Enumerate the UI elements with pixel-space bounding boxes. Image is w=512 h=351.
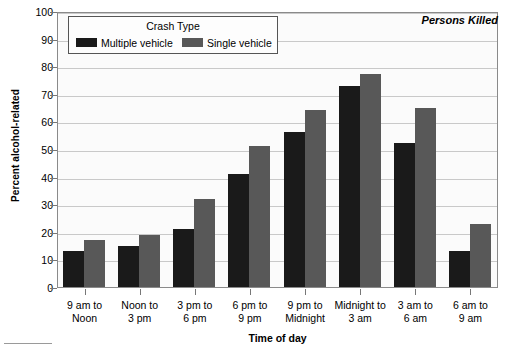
bar — [284, 132, 305, 287]
bar-group — [444, 13, 499, 287]
bar-group — [334, 13, 389, 287]
legend: Crash Type Multiple vehicle Single vehic… — [68, 16, 278, 54]
x-axis-tick-label-line: 9 am — [433, 312, 507, 325]
y-axis-tick-mark — [50, 12, 57, 13]
chart-annotation: Persons Killed — [422, 14, 498, 26]
bar-group — [168, 13, 223, 287]
x-axis-tick-mark — [85, 289, 86, 295]
bar — [305, 110, 326, 287]
legend-title: Crash Type — [69, 20, 277, 32]
bar — [394, 143, 415, 287]
bar-group — [279, 13, 334, 287]
bar — [360, 74, 381, 287]
y-axis-tick-mark — [50, 122, 57, 123]
bar — [470, 224, 491, 287]
y-axis-tick-label: 70 — [13, 90, 53, 100]
bar — [173, 229, 194, 287]
scan-artifact-line — [4, 343, 52, 344]
y-axis-tick-mark — [50, 178, 57, 179]
x-axis-tick-mark — [140, 289, 141, 295]
x-axis-tick-mark — [250, 289, 251, 295]
bar — [449, 251, 470, 287]
x-axis-tick-label: 6 am to9 am — [433, 299, 507, 324]
x-axis-tick-mark — [470, 289, 471, 295]
y-axis-tick-label: 90 — [13, 35, 53, 45]
y-axis-tick-label: 0 — [13, 283, 53, 293]
y-axis-tick-label: 80 — [13, 62, 53, 72]
bar — [249, 146, 270, 287]
y-axis-tick-mark — [50, 205, 57, 206]
bar — [194, 199, 215, 287]
y-axis-tick-mark — [50, 150, 57, 151]
y-axis-tick-label: 50 — [13, 145, 53, 155]
y-axis-tick-mark — [50, 40, 57, 41]
x-axis-tick-mark — [305, 289, 306, 295]
bar — [228, 174, 249, 287]
bar-group — [58, 13, 113, 287]
legend-label-single-vehicle: Single vehicle — [207, 37, 272, 49]
legend-swatch-multiple-vehicle — [76, 38, 97, 47]
legend-swatch-single-vehicle — [182, 38, 203, 47]
bar-group — [223, 13, 278, 287]
y-axis-tick-mark — [50, 67, 57, 68]
y-axis-tick-label: 100 — [13, 7, 53, 17]
y-axis-tick-mark — [50, 233, 57, 234]
bar — [118, 246, 139, 287]
y-axis-tick-label: 10 — [13, 255, 53, 265]
bar-chart-figure: Percent alcohol-related 0102030405060708… — [0, 0, 512, 351]
legend-label-multiple-vehicle: Multiple vehicle — [101, 37, 173, 49]
bar-group — [113, 13, 168, 287]
x-axis-title: Time of day — [57, 332, 498, 344]
legend-entry-single-vehicle: Single vehicle — [182, 36, 272, 49]
bar — [139, 235, 160, 287]
x-axis-tick-mark — [415, 289, 416, 295]
y-axis-tick-label: 60 — [13, 117, 53, 127]
y-axis-tick-label: 40 — [13, 173, 53, 183]
x-axis-tick-label-line: 6 am to — [433, 299, 507, 312]
x-axis-tick-mark — [360, 289, 361, 295]
bar-group — [389, 13, 444, 287]
bar — [63, 251, 84, 287]
bar — [84, 240, 105, 287]
bar — [339, 86, 360, 287]
bar — [415, 108, 436, 287]
y-axis-tick-mark — [50, 288, 57, 289]
y-axis-tick-label: 30 — [13, 200, 53, 210]
y-axis-tick-mark — [50, 260, 57, 261]
y-axis-tick-label: 20 — [13, 228, 53, 238]
legend-entry-multiple-vehicle: Multiple vehicle — [76, 36, 173, 49]
x-axis-tick-mark — [195, 289, 196, 295]
y-axis-tick-mark — [50, 95, 57, 96]
